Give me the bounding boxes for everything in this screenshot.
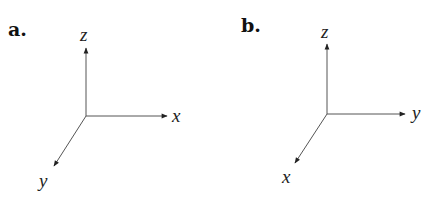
panel-a-axes [54, 48, 167, 166]
panel-b-label: b. [241, 14, 261, 36]
panel-a-z-label: z [80, 25, 87, 44]
panel-a-label: a. [8, 18, 27, 40]
panel-a-y-axis [54, 116, 86, 166]
panel-b-x-axis [295, 114, 327, 163]
panel-a-x-label: x [172, 106, 180, 125]
panel-b-z-label: z [321, 22, 328, 41]
panel-a-y-label: y [39, 171, 47, 190]
panel-b-x-label: x [282, 167, 290, 186]
axes-diagram [0, 0, 431, 202]
panel-b-y-label: y [412, 103, 420, 122]
panel-b-axes [295, 44, 405, 163]
